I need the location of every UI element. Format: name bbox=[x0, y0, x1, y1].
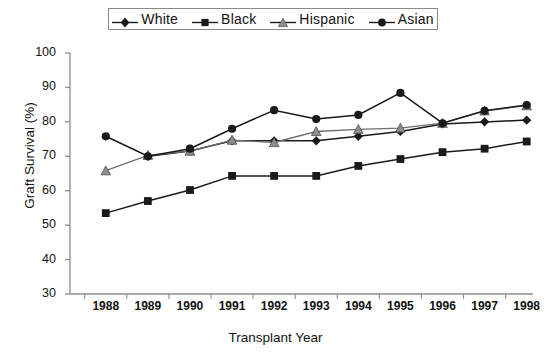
data-point-square bbox=[439, 148, 447, 156]
data-point-circle bbox=[186, 145, 194, 153]
data-point-diamond bbox=[522, 116, 531, 125]
data-point-square bbox=[270, 172, 278, 180]
y-tick-label: 70 bbox=[22, 148, 56, 162]
y-axis-ticks bbox=[65, 53, 70, 294]
data-point-triangle bbox=[101, 166, 111, 175]
data-point-square bbox=[397, 155, 405, 163]
y-tick-label: 40 bbox=[22, 252, 56, 266]
y-tick-label: 50 bbox=[22, 217, 56, 231]
y-tick-label: 60 bbox=[22, 183, 56, 197]
x-tick-label: 1996 bbox=[420, 299, 466, 313]
data-point-square bbox=[102, 209, 110, 217]
x-tick-label: 1993 bbox=[293, 299, 339, 313]
data-point-circle bbox=[480, 107, 488, 115]
data-point-square bbox=[186, 186, 194, 194]
y-tick-label: 80 bbox=[22, 114, 56, 128]
data-point-diamond bbox=[312, 136, 321, 145]
data-series bbox=[101, 89, 532, 217]
data-point-square bbox=[481, 145, 489, 153]
y-tick-label: 90 bbox=[22, 79, 56, 93]
data-point-circle bbox=[312, 115, 320, 123]
x-tick-label: 1988 bbox=[83, 299, 129, 313]
x-tick-label: 1992 bbox=[251, 299, 297, 313]
series-line bbox=[106, 93, 527, 156]
data-point-square bbox=[228, 172, 236, 180]
y-tick-label: 100 bbox=[22, 45, 56, 59]
x-tick-label: 1997 bbox=[462, 299, 508, 313]
x-tick-label: 1995 bbox=[377, 299, 423, 313]
data-point-square bbox=[354, 162, 362, 170]
data-point-circle bbox=[438, 119, 446, 127]
x-tick-label: 1998 bbox=[504, 299, 550, 313]
data-point-circle bbox=[354, 111, 362, 119]
y-tick-label: 30 bbox=[22, 286, 56, 300]
series-black bbox=[102, 138, 531, 217]
x-tick-label: 1994 bbox=[335, 299, 381, 313]
x-tick-label: 1989 bbox=[125, 299, 171, 313]
data-point-circle bbox=[523, 101, 531, 109]
data-point-square bbox=[144, 197, 152, 205]
series-line bbox=[148, 120, 527, 156]
x-tick-label: 1990 bbox=[167, 299, 213, 313]
data-point-circle bbox=[102, 132, 110, 140]
data-point-circle bbox=[270, 106, 278, 114]
x-tick-label: 1991 bbox=[209, 299, 255, 313]
data-point-circle bbox=[396, 89, 404, 97]
axes bbox=[70, 53, 533, 294]
data-point-diamond bbox=[480, 117, 489, 126]
data-point-circle bbox=[228, 125, 236, 133]
data-point-square bbox=[312, 172, 320, 180]
data-point-circle bbox=[144, 152, 152, 160]
data-point-square bbox=[523, 138, 531, 146]
graft-survival-line-chart: White Black Hispanic bbox=[0, 0, 551, 360]
series-white bbox=[143, 116, 531, 161]
